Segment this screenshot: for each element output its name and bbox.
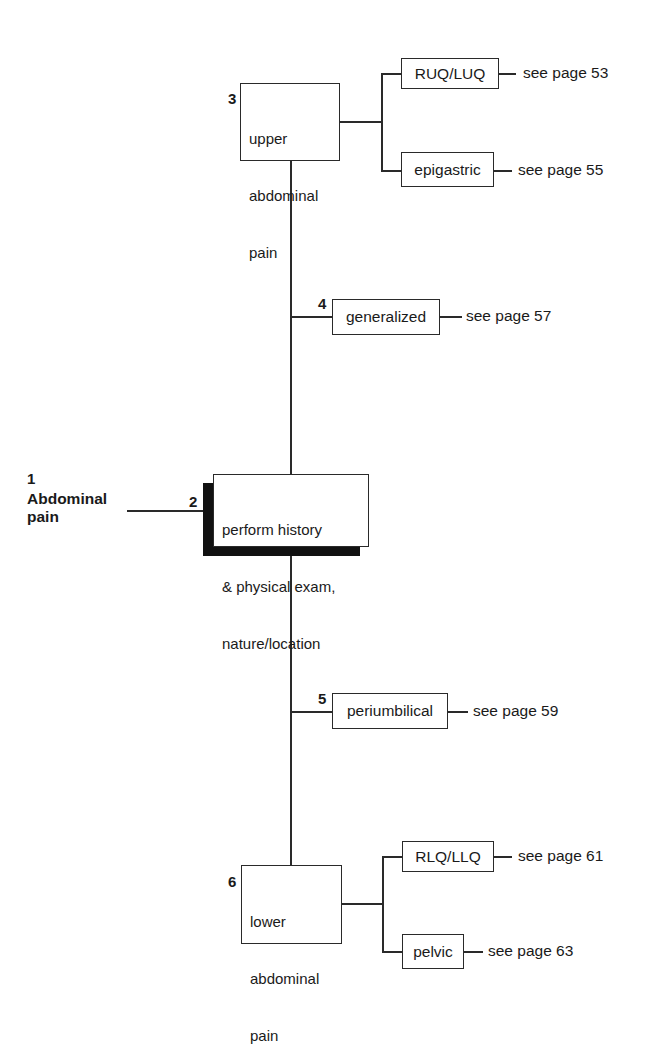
root-connector xyxy=(127,510,204,512)
ruq-luq-label: RUQ/LUQ xyxy=(415,65,486,83)
step3-text: upper abdominal pain xyxy=(249,91,318,300)
ruq-luq-box[interactable]: RUQ/LUQ xyxy=(401,58,499,89)
step2-line3: nature/location xyxy=(222,634,335,653)
step2-number: 2 xyxy=(189,493,197,510)
rlq-llq-box[interactable]: RLQ/LLQ xyxy=(402,841,494,872)
ruq-ref-connector xyxy=(498,73,516,75)
step2-line2: & physical exam, xyxy=(222,577,335,596)
generalized-ref[interactable]: see page 57 xyxy=(466,307,551,325)
step6-branch-connector xyxy=(341,903,382,905)
rlq-llq-label: RLQ/LLQ xyxy=(415,848,480,866)
step6-text: lower abdominal pain xyxy=(250,874,319,1048)
rlq-ref-connector xyxy=(493,856,512,858)
step6-line1: lower xyxy=(250,912,319,931)
pelvic-ref[interactable]: see page 63 xyxy=(488,942,573,960)
periumbilical-label: periumbilical xyxy=(347,702,433,720)
step4-number: 4 xyxy=(318,295,326,312)
pelvic-connector xyxy=(382,951,402,953)
generalized-label: generalized xyxy=(346,308,426,326)
step3-number: 3 xyxy=(228,90,236,107)
periumbilical-ref[interactable]: see page 59 xyxy=(473,702,558,720)
step4-ref-connector xyxy=(439,316,462,318)
pelvic-ref-connector xyxy=(463,951,483,953)
root-label-line2: pain xyxy=(27,508,107,526)
root-label: Abdominal pain xyxy=(27,490,107,526)
periumbilical-box[interactable]: periumbilical xyxy=(332,693,448,729)
step2-box[interactable]: perform history & physical exam, nature/… xyxy=(213,474,369,547)
step4-connector xyxy=(290,316,332,318)
step1-number: 1 xyxy=(27,470,35,487)
rlq-connector xyxy=(382,856,402,858)
epigastric-box[interactable]: epigastric xyxy=(401,152,494,187)
step3-line2: abdominal xyxy=(249,186,318,205)
step3-branch-connector xyxy=(339,121,381,123)
rlq-llq-ref[interactable]: see page 61 xyxy=(518,847,603,865)
epigastric-ref[interactable]: see page 55 xyxy=(518,161,603,179)
step6-line2: abdominal xyxy=(250,969,319,988)
epigastric-connector xyxy=(381,170,401,172)
step6-line3: pain xyxy=(250,1026,319,1045)
step3-line1: upper xyxy=(249,129,318,148)
generalized-box[interactable]: generalized xyxy=(332,299,440,335)
step5-number: 5 xyxy=(318,690,326,707)
ruq-luq-ref[interactable]: see page 53 xyxy=(523,64,608,82)
step3-line3: pain xyxy=(249,243,318,262)
epigastric-label: epigastric xyxy=(414,161,480,179)
step3-branch-spine xyxy=(381,73,383,171)
root-label-line1: Abdominal xyxy=(27,490,107,508)
step3-box[interactable]: upper abdominal pain xyxy=(240,83,340,161)
step5-ref-connector xyxy=(447,711,468,713)
step6-branch-spine xyxy=(382,856,384,952)
step2-line1: perform history xyxy=(222,520,335,539)
epigastric-ref-connector xyxy=(493,170,512,172)
step5-connector xyxy=(290,711,332,713)
step2-text: perform history & physical exam, nature/… xyxy=(222,482,335,691)
pelvic-label: pelvic xyxy=(413,943,453,961)
pelvic-box[interactable]: pelvic xyxy=(402,934,464,969)
step6-box[interactable]: lower abdominal pain xyxy=(241,865,342,944)
step6-number: 6 xyxy=(228,873,236,890)
ruq-connector xyxy=(381,73,401,75)
